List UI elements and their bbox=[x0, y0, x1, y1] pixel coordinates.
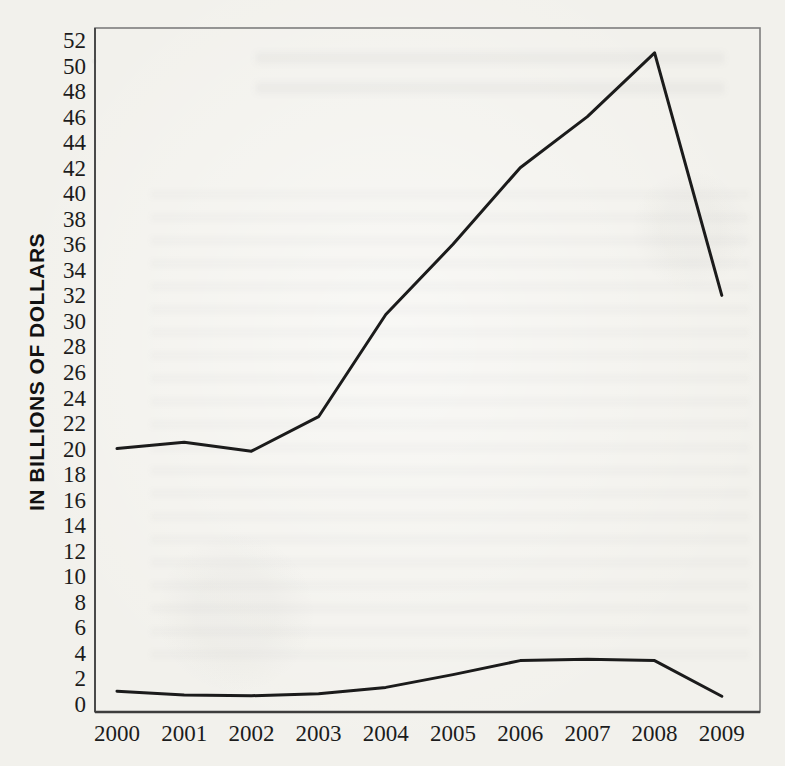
scanned-page: IN BILLIONS OF DOLLARS 02468101214161820… bbox=[0, 0, 785, 766]
y-tick-label: 40 bbox=[63, 181, 86, 206]
y-tick-label: 26 bbox=[63, 360, 86, 385]
y-tick-label: 42 bbox=[63, 156, 86, 181]
y-tick-label: 12 bbox=[63, 539, 86, 564]
y-tick-label: 4 bbox=[75, 641, 87, 666]
y-tick-label: 32 bbox=[63, 283, 86, 308]
x-tick-label: 2003 bbox=[296, 721, 342, 746]
y-tick-label: 30 bbox=[63, 309, 86, 334]
y-tick-label: 20 bbox=[63, 437, 86, 462]
x-tick-label: 2006 bbox=[497, 721, 543, 746]
x-tick-label: 2009 bbox=[699, 721, 745, 746]
y-tick-label: 52 bbox=[63, 28, 86, 53]
line-chart: IN BILLIONS OF DOLLARS 02468101214161820… bbox=[0, 0, 785, 766]
data-series-lines bbox=[117, 53, 722, 697]
x-tick-label: 2008 bbox=[632, 721, 678, 746]
y-tick-label: 0 bbox=[75, 692, 87, 717]
y-tick-label: 18 bbox=[63, 462, 86, 487]
y-axis-tick-labels: 0246810121416182022242628303234363840424… bbox=[63, 28, 87, 717]
y-tick-label: 46 bbox=[63, 105, 86, 130]
y-tick-label: 38 bbox=[63, 207, 86, 232]
y-tick-label: 8 bbox=[75, 590, 87, 615]
y-tick-label: 44 bbox=[63, 130, 87, 155]
y-tick-label: 28 bbox=[63, 334, 86, 359]
x-tick-label: 2004 bbox=[363, 721, 410, 746]
y-tick-label: 16 bbox=[63, 488, 86, 513]
series-upper-line bbox=[117, 53, 722, 451]
y-tick-label: 2 bbox=[75, 666, 87, 691]
y-tick-label: 48 bbox=[63, 79, 86, 104]
x-tick-label: 2005 bbox=[430, 721, 476, 746]
y-tick-label: 34 bbox=[63, 258, 87, 283]
y-tick-label: 36 bbox=[63, 232, 86, 257]
series-lower-line bbox=[117, 659, 722, 696]
x-tick-label: 2001 bbox=[161, 721, 207, 746]
x-axis-tick-labels: 2000200120022003200420052006200720082009 bbox=[94, 721, 745, 746]
y-tick-label: 24 bbox=[63, 386, 87, 411]
y-tick-label: 22 bbox=[63, 411, 86, 436]
x-tick-label: 2000 bbox=[94, 721, 140, 746]
y-tick-label: 14 bbox=[63, 513, 87, 538]
y-tick-label: 50 bbox=[63, 54, 86, 79]
plot-border bbox=[95, 28, 760, 712]
x-tick-label: 2002 bbox=[228, 721, 274, 746]
y-tick-label: 6 bbox=[75, 615, 87, 640]
y-axis-title: IN BILLIONS OF DOLLARS bbox=[25, 233, 48, 511]
x-tick-label: 2007 bbox=[564, 721, 610, 746]
y-tick-label: 10 bbox=[63, 564, 86, 589]
